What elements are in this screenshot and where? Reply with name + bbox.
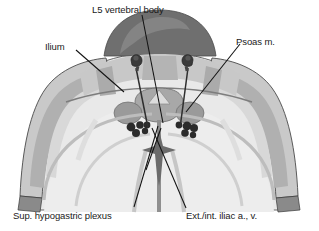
needle-hub-cap	[185, 55, 190, 60]
needle-hub-cap	[133, 55, 138, 60]
mid-band-center	[142, 56, 178, 80]
vessel-blob	[190, 124, 198, 132]
label-l5-vertebral-body: L5 vertebral body	[92, 4, 164, 15]
label-superior-hypogastric-plexus: Sup. hypogastric plexus	[13, 210, 112, 221]
dome-dark	[104, 10, 216, 56]
label-ilium: Ilium	[45, 41, 65, 52]
label-psoas-muscle: Psoas m.	[236, 36, 275, 47]
label-external-internal-iliac-vessels: Ext./int. iliac a., v.	[186, 210, 257, 221]
posterior-dome	[104, 10, 216, 56]
vessel-blob	[132, 129, 140, 137]
left-psoas	[114, 102, 142, 124]
right-ilium-edge-dark	[276, 196, 300, 212]
figure-container: L5 vertebral body Ilium Psoas m. Sup. hy…	[0, 0, 319, 231]
vessel-blob	[181, 129, 189, 137]
right-psoas	[176, 102, 204, 124]
vessel-blob	[190, 132, 196, 138]
anatomy-illustration	[0, 0, 319, 231]
vessel-blob	[183, 122, 192, 131]
vessel-blob	[136, 121, 144, 129]
vessel-blob	[142, 128, 148, 134]
